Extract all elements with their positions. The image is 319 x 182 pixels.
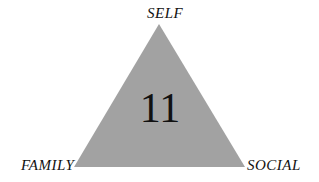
vertex-label-self: SELF xyxy=(147,5,183,22)
vertex-label-social: SOCIAL xyxy=(247,157,301,174)
vertex-label-family: FAMILY xyxy=(21,157,74,174)
center-value: 11 xyxy=(138,84,182,132)
